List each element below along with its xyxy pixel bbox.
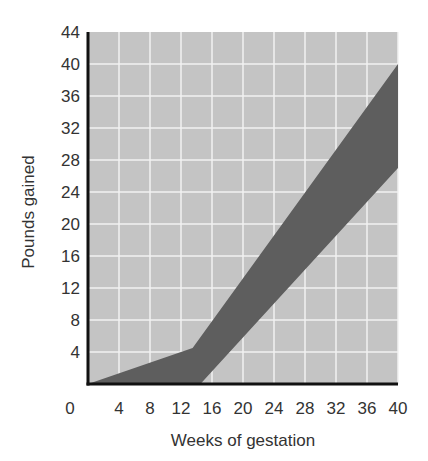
x-tick-label: 8 <box>145 399 154 418</box>
y-tick-label: 12 <box>61 279 80 298</box>
y-axis-tick-labels: 48121620242832364044 <box>61 23 80 362</box>
x-tick-label: 32 <box>327 399 346 418</box>
y-tick-label: 8 <box>71 311 80 330</box>
x-tick-label: 16 <box>203 399 222 418</box>
y-tick-label: 20 <box>61 215 80 234</box>
x-tick-label: 36 <box>358 399 377 418</box>
y-tick-label: 36 <box>61 87 80 106</box>
y-tick-label: 28 <box>61 151 80 170</box>
x-tick-label: 12 <box>172 399 191 418</box>
y-tick-label: 4 <box>71 343 80 362</box>
y-tick-label: 16 <box>61 247 80 266</box>
y-axis-title: Pounds gained <box>19 155 38 268</box>
x-tick-label: 4 <box>114 399 123 418</box>
x-tick-label: 40 <box>389 399 408 418</box>
x-tick-label: 28 <box>296 399 315 418</box>
weight-gain-chart: 48121620242832364044 0481216202428323640… <box>0 0 428 461</box>
y-tick-label: 24 <box>61 183 80 202</box>
x-tick-label: 20 <box>234 399 253 418</box>
y-tick-label: 44 <box>61 23 80 42</box>
x-axis-tick-labels: 0481216202428323640 <box>65 399 407 418</box>
x-tick-label: 0 <box>65 399 74 418</box>
x-tick-label: 24 <box>265 399 284 418</box>
y-tick-label: 32 <box>61 119 80 138</box>
y-tick-label: 40 <box>61 55 80 74</box>
x-axis-title: Weeks of gestation <box>171 431 315 450</box>
